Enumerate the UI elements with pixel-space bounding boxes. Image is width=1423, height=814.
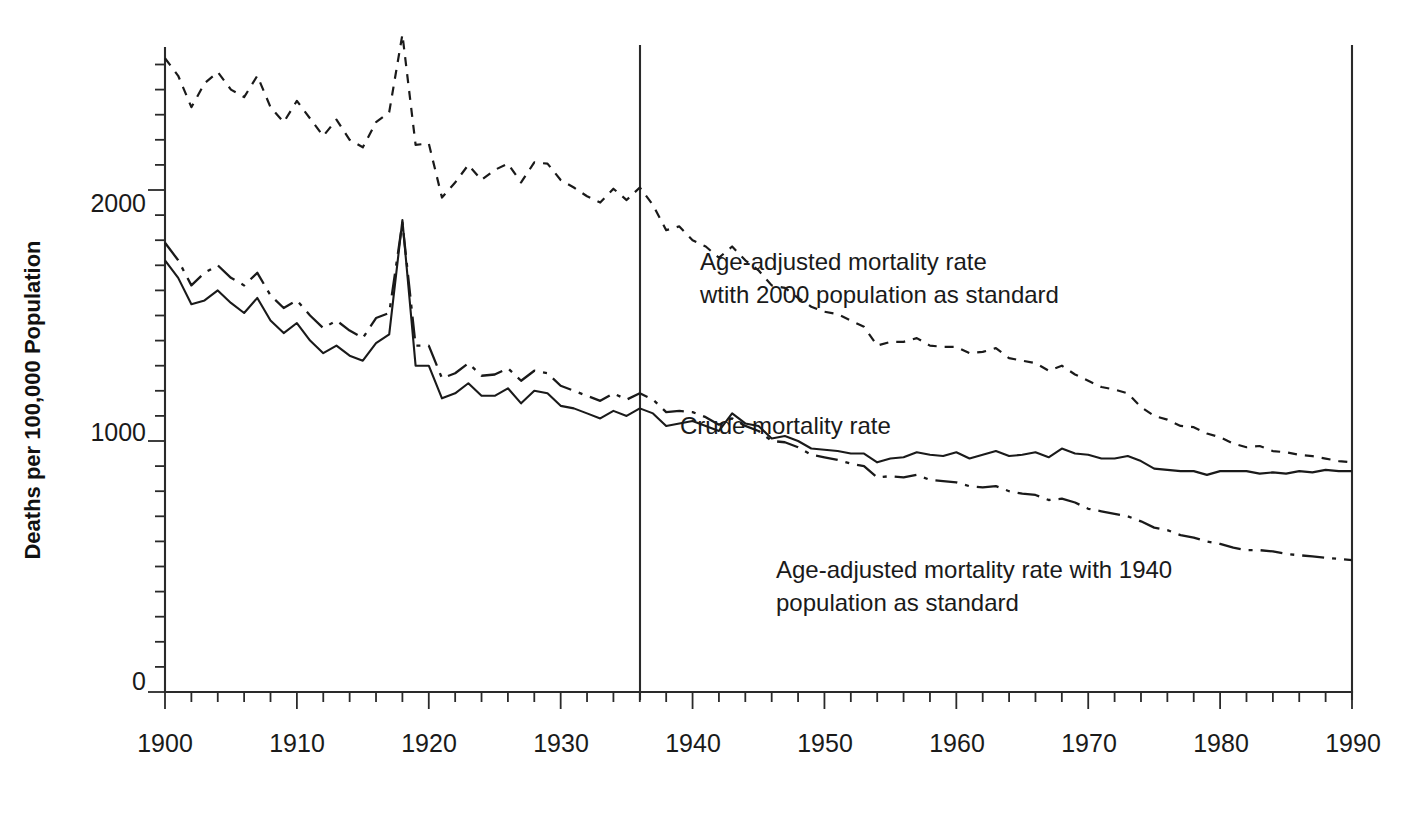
y-axis-ticks bbox=[148, 65, 165, 693]
x-tick-labels: 1900 1910 1920 1930 1940 1950 1960 1970 … bbox=[137, 729, 1381, 757]
mortality-rate-line-chart: 2000 1000 0 1900 1910 1920 1930 1940 195… bbox=[0, 0, 1423, 814]
x-tick-label-1960: 1960 bbox=[929, 729, 985, 757]
y-tick-labels: 2000 1000 0 bbox=[90, 189, 146, 695]
annotation-crude: Crude mortality rate bbox=[680, 412, 891, 439]
annot-aa2000-line2: wtith 2000 population as standard bbox=[699, 281, 1059, 308]
x-tick-label-1930: 1930 bbox=[533, 729, 589, 757]
x-tick-label-1990: 1990 bbox=[1325, 729, 1381, 757]
chart-page: 2000 1000 0 1900 1910 1920 1930 1940 195… bbox=[0, 0, 1423, 814]
y-tick-label-1000: 1000 bbox=[90, 418, 146, 446]
axis-group bbox=[165, 48, 1352, 692]
y-tick-label-0: 0 bbox=[132, 667, 146, 695]
x-tick-label-1940: 1940 bbox=[665, 729, 721, 757]
annot-crude-line1: Crude mortality rate bbox=[680, 412, 891, 439]
annotation-age-adjusted-2000: Age-adjusted mortality rate wtith 2000 p… bbox=[699, 248, 1059, 308]
annotation-age-adjusted-1940: Age-adjusted mortality rate with 1940 po… bbox=[776, 556, 1172, 616]
x-axis-ticks bbox=[165, 692, 1352, 709]
x-tick-label-1970: 1970 bbox=[1061, 729, 1117, 757]
x-tick-label-1950: 1950 bbox=[797, 729, 853, 757]
annot-aa1940-line2: population as standard bbox=[776, 589, 1019, 616]
x-tick-label-1980: 1980 bbox=[1193, 729, 1249, 757]
x-tick-label-1900: 1900 bbox=[137, 729, 193, 757]
x-tick-label-1910: 1910 bbox=[269, 729, 325, 757]
y-axis-title: Deaths per 100,000 Population bbox=[20, 240, 45, 559]
y-tick-label-2000: 2000 bbox=[90, 189, 146, 217]
annot-aa2000-line1: Age-adjusted mortality rate bbox=[700, 248, 987, 275]
annot-aa1940-line1: Age-adjusted mortality rate with 1940 bbox=[776, 556, 1172, 583]
x-tick-label-1920: 1920 bbox=[401, 729, 457, 757]
